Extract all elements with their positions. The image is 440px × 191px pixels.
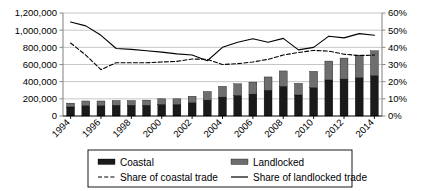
- bar-segment: [127, 105, 135, 116]
- legend-label: Share of landlocked trade: [253, 172, 367, 183]
- bar-segment: [234, 84, 242, 96]
- y2-tick-label: 50%: [388, 25, 408, 36]
- chart-container: 0200,000400,000600,000800,0001,000,0001,…: [0, 0, 440, 191]
- legend-label: Landlocked: [253, 157, 304, 168]
- bar-segment: [188, 96, 196, 102]
- bar-segment: [295, 95, 303, 116]
- bar-segment: [310, 88, 318, 116]
- bar-segment: [325, 61, 333, 80]
- bar-segment: [279, 86, 287, 116]
- bar-segment: [158, 99, 166, 105]
- bar-segment: [295, 83, 303, 95]
- bar-segment: [279, 71, 287, 86]
- bar-segment: [112, 101, 120, 106]
- bar-segment: [173, 104, 181, 116]
- bar-segment: [325, 80, 333, 116]
- y2-tick-label: 30%: [388, 59, 408, 70]
- bar-segment: [97, 106, 105, 116]
- y2-tick-label: 20%: [388, 76, 408, 87]
- bar-segment: [340, 79, 348, 116]
- y2-tick-label: 0%: [388, 110, 402, 121]
- bar-segment: [310, 71, 318, 87]
- legend-label: Share of coastal trade: [120, 172, 218, 183]
- bar-segment: [82, 106, 90, 116]
- bar-segment: [249, 94, 257, 116]
- stacked-bar-and-line-chart: 0200,000400,000600,000800,0001,000,0001,…: [0, 0, 440, 191]
- bar-segment: [370, 76, 378, 116]
- bar-segment: [188, 103, 196, 116]
- legend-swatch-bar: [231, 159, 248, 165]
- bar-segment: [340, 58, 348, 79]
- bar-segment: [219, 97, 227, 116]
- bar-segment: [234, 95, 242, 116]
- y2-tick-label: 40%: [388, 42, 408, 53]
- y-tick-label: 400,000: [23, 76, 57, 87]
- bar-segment: [264, 77, 272, 90]
- bar-segment: [112, 105, 120, 116]
- legend-swatch-bar: [98, 159, 115, 165]
- bar-segment: [143, 105, 151, 116]
- chart-legend: CoastalLandlockedShare of coastal tradeS…: [88, 150, 367, 187]
- bar-segment: [355, 78, 363, 116]
- bar-segment: [264, 90, 272, 116]
- bar-segment: [158, 104, 166, 116]
- bar-segment: [370, 51, 378, 76]
- bar-segment: [97, 101, 105, 106]
- y-tick-label: 600,000: [23, 59, 57, 70]
- y-tick-label: 800,000: [23, 42, 57, 53]
- y2-tick-label: 10%: [388, 93, 408, 104]
- y-tick-label: 1,200,000: [15, 7, 57, 18]
- bar-segment: [203, 92, 211, 101]
- legend-label: Coastal: [120, 157, 154, 168]
- bar-segment: [249, 82, 257, 94]
- bar-segment: [219, 86, 227, 97]
- bar-segment: [127, 101, 135, 106]
- bar-segment: [173, 99, 181, 105]
- y-tick-label: 200,000: [23, 93, 57, 104]
- bar-segment: [67, 107, 75, 116]
- y-tick-label: 1,000,000: [15, 25, 57, 36]
- y-tick-label: 0: [52, 110, 57, 121]
- bar-segment: [82, 101, 90, 106]
- bar-segment: [143, 100, 151, 105]
- y2-tick-label: 60%: [388, 7, 408, 18]
- bar-segment: [203, 100, 211, 116]
- bar-segment: [355, 55, 363, 78]
- bar-segment: [67, 103, 75, 107]
